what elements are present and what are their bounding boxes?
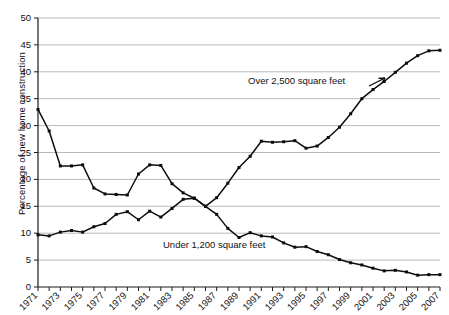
data-point-marker (81, 163, 84, 166)
data-point-marker (171, 182, 174, 185)
x-tick-label: 1995 (285, 290, 308, 313)
x-tick-label: 1987 (195, 290, 218, 313)
data-point-marker (92, 187, 95, 190)
x-tick-label: 1977 (84, 290, 107, 313)
annotation-under-1200: Under 1,200 square feet (163, 239, 266, 250)
x-tick-label: 2003 (374, 290, 397, 313)
data-point-marker (260, 140, 263, 143)
y-tick-label: 40 (20, 66, 31, 77)
y-tick-labels-group: 50454035302520151050 (20, 12, 31, 292)
data-point-marker (115, 193, 118, 196)
data-point-marker (215, 213, 218, 216)
data-point-marker (282, 241, 285, 244)
data-point-marker (37, 233, 40, 236)
x-tick-label: 1989 (218, 290, 241, 313)
x-tick-label: 2005 (396, 290, 419, 313)
data-point-marker (148, 210, 151, 213)
data-point-marker (159, 216, 162, 219)
x-tick-labels-group: 1971197319751977197919811983198519871989… (17, 290, 442, 313)
chart-figure: Percentage of new home construction 5045… (0, 0, 449, 315)
data-point-marker (70, 229, 73, 232)
y-tick-label: 25 (20, 147, 31, 158)
data-point-marker (338, 126, 341, 129)
x-tick-label: 1975 (61, 290, 84, 313)
data-point-marker (327, 253, 330, 256)
data-point-marker (360, 263, 363, 266)
data-point-marker (282, 140, 285, 143)
annotation-over-2500: Over 2,500 square feet (248, 75, 346, 86)
data-point-marker (405, 62, 408, 65)
data-point-marker (226, 227, 229, 230)
data-point-marker (439, 273, 442, 276)
data-point-marker (360, 97, 363, 100)
data-point-marker (148, 163, 151, 166)
data-point-marker (137, 173, 140, 176)
data-point-marker (81, 231, 84, 234)
data-point-marker (104, 222, 107, 225)
data-point-marker (171, 207, 174, 210)
data-point-marker (416, 54, 419, 57)
gridlines-group (38, 18, 440, 260)
annotations-group: Over 2,500 square feetUnder 1,200 square… (163, 75, 385, 250)
data-point-marker (137, 218, 140, 221)
data-point-marker (383, 269, 386, 272)
y-tick-label: 10 (20, 227, 31, 238)
data-point-marker (349, 112, 352, 115)
y-tick-label: 50 (20, 12, 31, 23)
x-tick-label: 1979 (106, 290, 129, 313)
data-point-marker (193, 197, 196, 200)
data-point-marker (215, 196, 218, 199)
x-tick-label: 1991 (240, 290, 263, 313)
data-point-marker (327, 136, 330, 139)
data-point-marker (126, 194, 129, 197)
x-tick-label: 1971 (17, 290, 40, 313)
data-point-marker (48, 234, 51, 237)
data-point-marker (104, 192, 107, 195)
data-point-marker (372, 267, 375, 270)
series-line (38, 50, 440, 206)
y-tick-label: 20 (20, 173, 31, 184)
data-point-marker (427, 49, 430, 52)
data-point-marker (372, 88, 375, 91)
y-tick-label: 5 (26, 254, 31, 265)
y-tick-label: 15 (20, 200, 31, 211)
data-point-marker (394, 71, 397, 74)
data-point-marker (405, 270, 408, 273)
data-point-marker (37, 108, 40, 111)
data-point-marker (271, 141, 274, 144)
data-point-marker (115, 213, 118, 216)
data-point-marker (238, 166, 241, 169)
data-point-marker (305, 245, 308, 248)
data-point-marker (126, 210, 129, 213)
data-point-marker (427, 273, 430, 276)
x-tick-label: 1985 (173, 290, 196, 313)
x-tick-label: 1973 (39, 290, 62, 313)
data-point-marker (59, 231, 62, 234)
data-point-marker (92, 225, 95, 228)
data-point-marker (226, 182, 229, 185)
data-point-marker (293, 246, 296, 249)
data-point-marker (182, 198, 185, 201)
data-point-marker (394, 269, 397, 272)
data-point-marker (59, 164, 62, 167)
data-point-marker (338, 258, 341, 261)
x-tick-label: 1981 (128, 290, 151, 313)
series-1 (37, 49, 442, 208)
y-tick-label: 30 (20, 120, 31, 131)
plot-area-wrapper: 50454035302520151050 1971197319751977197… (0, 0, 449, 315)
data-point-marker (48, 129, 51, 132)
data-point-marker (271, 235, 274, 238)
x-tick-label: 1999 (329, 290, 352, 313)
data-point-marker (439, 49, 442, 52)
data-point-marker (182, 191, 185, 194)
data-point-marker (305, 147, 308, 150)
data-point-marker (204, 205, 207, 208)
x-tick-label: 1997 (307, 290, 330, 313)
x-tick-label: 1983 (151, 290, 174, 313)
data-point-marker (260, 234, 263, 237)
data-point-marker (316, 145, 319, 148)
x-tick-label: 2007 (419, 290, 442, 313)
x-tick-label: 2001 (352, 290, 375, 313)
data-point-marker (293, 139, 296, 142)
data-point-marker (159, 164, 162, 167)
